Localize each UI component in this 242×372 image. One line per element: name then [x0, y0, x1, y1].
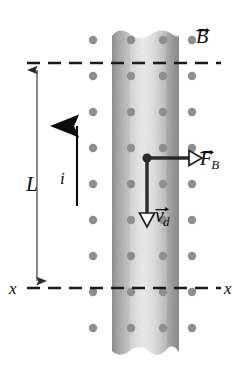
magnetic-force-label: F B	[200, 148, 219, 171]
current-label: i	[60, 170, 65, 187]
length-label: L	[26, 174, 38, 195]
vector-arrow-icon	[196, 26, 210, 33]
f-subscript: B	[211, 157, 219, 172]
vector-arrow-icon	[155, 205, 169, 212]
physics-figure: L i x x B F B v d	[0, 0, 242, 372]
drift-velocity-label: v d	[155, 205, 169, 228]
f-vector-wrap: F	[200, 148, 212, 168]
axis-label-right: x	[224, 280, 232, 297]
charge-carrier-dot	[142, 153, 151, 162]
b-vector-wrap: B	[196, 26, 208, 46]
magnetic-field-label: B	[196, 26, 208, 46]
axis-label-left: x	[9, 280, 17, 297]
vector-arrow-icon	[200, 148, 214, 155]
v-vector-wrap: v	[155, 205, 164, 225]
